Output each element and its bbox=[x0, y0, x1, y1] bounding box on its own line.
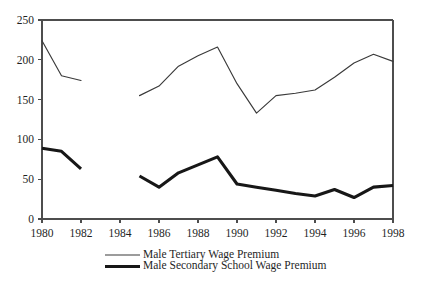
series-line-tertiary bbox=[140, 47, 394, 113]
line-chart-canvas: 050100150200250 198019821984198619881990… bbox=[0, 0, 421, 285]
y-tick-label: 100 bbox=[17, 133, 35, 145]
x-axis-ticks: 1980198219841986198819901992199419961998 bbox=[31, 219, 405, 239]
x-tick-label: 1994 bbox=[304, 227, 327, 239]
x-tick-label: 1986 bbox=[148, 227, 171, 239]
x-tick-label: 1990 bbox=[226, 227, 249, 239]
x-tick-label: 1998 bbox=[382, 227, 405, 239]
chart-legend: Male Tertiary Wage PremiumMale Secondary… bbox=[105, 248, 327, 273]
y-tick-label: 250 bbox=[17, 14, 35, 26]
y-tick-label: 200 bbox=[17, 54, 35, 66]
legend-label: Male Secondary School Wage Premium bbox=[143, 259, 327, 272]
y-tick-label: 150 bbox=[17, 94, 35, 106]
x-tick-label: 1996 bbox=[343, 227, 366, 239]
x-tick-label: 1984 bbox=[109, 227, 132, 239]
x-tick-label: 1992 bbox=[265, 227, 288, 239]
series-line-tertiary bbox=[42, 41, 81, 81]
y-tick-label: 0 bbox=[28, 213, 34, 225]
chart-series bbox=[42, 41, 393, 198]
chart-axes bbox=[42, 20, 393, 219]
y-tick-label: 50 bbox=[23, 173, 35, 185]
chart-figure: 050100150200250 198019821984198619881990… bbox=[0, 0, 421, 285]
x-tick-label: 1982 bbox=[70, 227, 93, 239]
y-axis-ticks: 050100150200250 bbox=[17, 14, 42, 225]
x-tick-label: 1988 bbox=[187, 227, 210, 239]
series-line-secondary bbox=[42, 148, 81, 169]
series-line-secondary bbox=[140, 157, 394, 198]
x-tick-label: 1980 bbox=[31, 227, 54, 239]
